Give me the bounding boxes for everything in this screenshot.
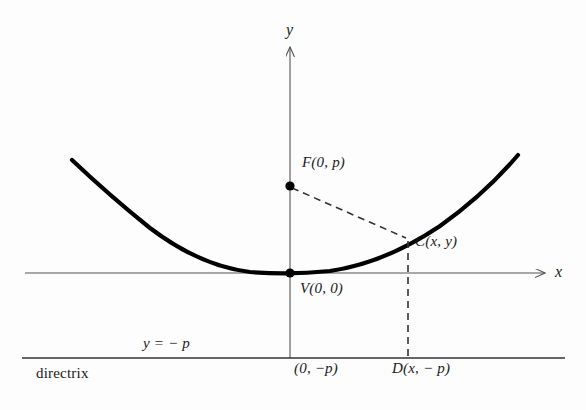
directrix-equation-label: y = − p xyxy=(143,336,190,351)
directrix-point-label: D(x, − p) xyxy=(392,361,450,376)
curve-point-label: C(x, y) xyxy=(415,234,457,249)
vertex-point-marker xyxy=(285,268,294,277)
focus-to-point-dashed-line xyxy=(292,188,406,238)
focus-point-marker xyxy=(285,181,294,190)
diagram-canvas xyxy=(0,0,586,410)
focus-point-label: F(0, p) xyxy=(302,155,345,170)
parabola-diagram: y x F(0, p) V(0, 0) C(x, y) (0, −p) D(x,… xyxy=(0,0,586,410)
directrix-origin-label: (0, −p) xyxy=(294,361,338,376)
directrix-name-label: directrix xyxy=(36,366,89,381)
x-axis-label: x xyxy=(555,264,562,280)
vertex-point-label: V(0, 0) xyxy=(300,281,343,296)
y-axis-label: y xyxy=(286,22,293,38)
parabola-curve xyxy=(72,155,518,273)
